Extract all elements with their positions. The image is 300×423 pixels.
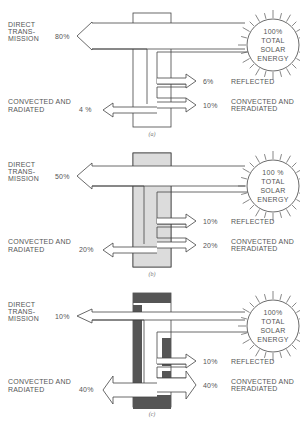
outside-convected-label: CONVECTED AND (231, 378, 294, 385)
outside-convected-value: 10% (203, 102, 218, 109)
reflected-value: 10% (203, 358, 218, 365)
direct-transmission-label: DIRECT (8, 161, 36, 168)
direct-transmission-label: TRANS- (8, 28, 36, 35)
direct-transmission-arrow (77, 22, 245, 50)
direct-transmission-label: MISSION (8, 315, 39, 322)
direct-transmission-label: DIRECT (8, 21, 36, 28)
direct-transmission-label: MISSION (8, 35, 39, 42)
sun-label-line: 100% (263, 28, 282, 35)
direct-transmission-value: 10% (55, 313, 70, 320)
sun-label-line: 100% (263, 309, 282, 316)
direct-transmission-value: 80% (55, 33, 70, 40)
inside-convected-value: 20% (79, 246, 94, 253)
sun-label-line: 100 % (262, 169, 283, 176)
reflected-label: REFLECTED (231, 358, 274, 365)
panel-caption: (a) (149, 131, 156, 138)
reflected-value: 10% (203, 218, 218, 225)
inside-convected-label: CONVECTED AND (8, 238, 71, 245)
outside-convected-label: CONVECTED AND (231, 238, 294, 245)
inside-convected-label: CONVECTED AND (8, 98, 71, 105)
reflected-label: REFLECTED (231, 218, 274, 225)
inside-convected-value: 40% (79, 386, 94, 393)
outside-convected-label: CONVECTED AND (231, 98, 294, 105)
outside-convected-value: 40% (203, 382, 218, 389)
inside-convected-label: RADIATED (8, 246, 44, 253)
panel-b: 100 %TOTALSOLARENERGYDIRECTTRANS-MISSION… (8, 151, 300, 278)
direct-transmission-label: MISSION (8, 175, 39, 182)
reflected-value: 6% (203, 78, 214, 85)
direct-transmission-value: 50% (55, 173, 70, 180)
panel-caption: (c) (149, 411, 156, 418)
sun-icon: 100%TOTALSOLARENERGY (238, 10, 300, 80)
panel-a: 100%TOTALSOLARENERGYDIRECTTRANS-MISSION8… (8, 10, 300, 138)
reflected-label: REFLECTED (231, 78, 274, 85)
inside-convected-label: RADIATED (8, 386, 44, 393)
sun-label-line: ENERGY (257, 196, 288, 203)
sun-label-line: SOLAR (260, 46, 285, 53)
inside-convected-value: 4 % (79, 106, 92, 113)
outside-convected-label: RERADIATED (231, 385, 278, 392)
direct-transmission-label: DIRECT (8, 301, 36, 308)
solar-energy-diagram: 100%TOTALSOLARENERGYDIRECTTRANS-MISSION8… (0, 0, 300, 423)
sun-label-line: ENERGY (257, 55, 288, 62)
panel-caption: (b) (149, 271, 156, 278)
sun-label-line: TOTAL (261, 318, 284, 325)
sun-label-line: SOLAR (260, 327, 285, 334)
direct-transmission-label: TRANS- (8, 308, 36, 315)
glass-top-band (133, 293, 171, 303)
sun-label-line: ENERGY (257, 336, 288, 343)
inside-convected-label: CONVECTED AND (8, 378, 71, 385)
panel-c: 100%TOTALSOLARENERGYDIRECTTRANS-MISSION1… (8, 291, 300, 418)
outside-convected-value: 20% (203, 242, 218, 249)
inside-convected-label: RADIATED (8, 106, 44, 113)
sun-icon: 100%TOTALSOLARENERGY (238, 291, 300, 361)
direct-transmission-label: TRANS- (8, 168, 36, 175)
outside-convected-label: RERADIATED (231, 105, 278, 112)
sun-label-line: TOTAL (261, 37, 284, 44)
sun-label-line: SOLAR (260, 187, 285, 194)
outside-convected-label: RERADIATED (231, 245, 278, 252)
direct-transmission-arrow (77, 163, 245, 189)
sun-icon: 100 %TOTALSOLARENERGY (238, 151, 300, 221)
sun-label-line: TOTAL (261, 178, 284, 185)
